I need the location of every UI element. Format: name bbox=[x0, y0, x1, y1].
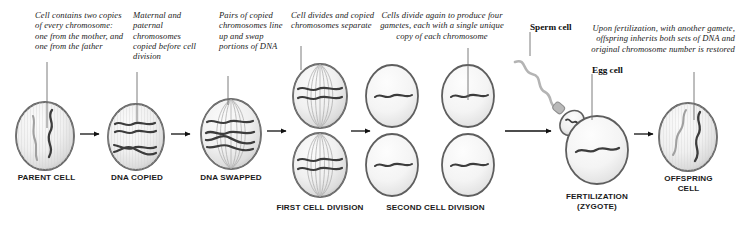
cell-dna-copied bbox=[108, 104, 164, 170]
note-fertilization: Upon fertilization, with another gamete,… bbox=[583, 23, 735, 54]
note-dna-copied: Maternal and paternal chromosomes copied… bbox=[133, 10, 201, 61]
cell-gamete-top-left bbox=[366, 65, 418, 127]
cell-gamete-bottom-left bbox=[366, 134, 418, 196]
meiosis-diagram: Cell contains two copies of every chromo… bbox=[0, 0, 742, 233]
caption-offspring-cell: OFFSPRING CELL bbox=[645, 174, 732, 193]
caption-first-cell-division: FIRST CELL DIVISION bbox=[263, 203, 377, 213]
cell-dna-swapped bbox=[201, 99, 261, 169]
tag-egg-cell: Egg cell bbox=[592, 65, 623, 75]
cell-first-division-bottom bbox=[293, 133, 347, 197]
caption-fertilization: FERTILIZATION (ZYGOTE) bbox=[543, 192, 651, 211]
cell-offspring bbox=[659, 103, 717, 171]
cell-first-division-top bbox=[293, 64, 347, 128]
cell-gamete-bottom-right bbox=[442, 134, 494, 196]
tag-sperm-cell: Sperm cell bbox=[530, 22, 572, 32]
cell-egg-zygote bbox=[566, 116, 628, 184]
note-dna-swapped: Pairs of copied chromosomes line up and … bbox=[219, 10, 285, 51]
note-second-division: Cells divide again to produce four gamet… bbox=[375, 10, 509, 41]
note-parent: Cell contains two copies of every chromo… bbox=[35, 10, 127, 51]
note-first-division: Cell divides and copied chromosomes sepa… bbox=[291, 10, 375, 31]
caption-dna-swapped: DNA SWAPPED bbox=[184, 173, 278, 183]
cell-parent bbox=[16, 102, 74, 170]
caption-parent-cell: PARENT CELL bbox=[0, 173, 93, 183]
caption-second-cell-division: SECOND CELL DIVISION bbox=[372, 203, 499, 213]
caption-dna-copied: DNA COPIED bbox=[92, 173, 182, 183]
